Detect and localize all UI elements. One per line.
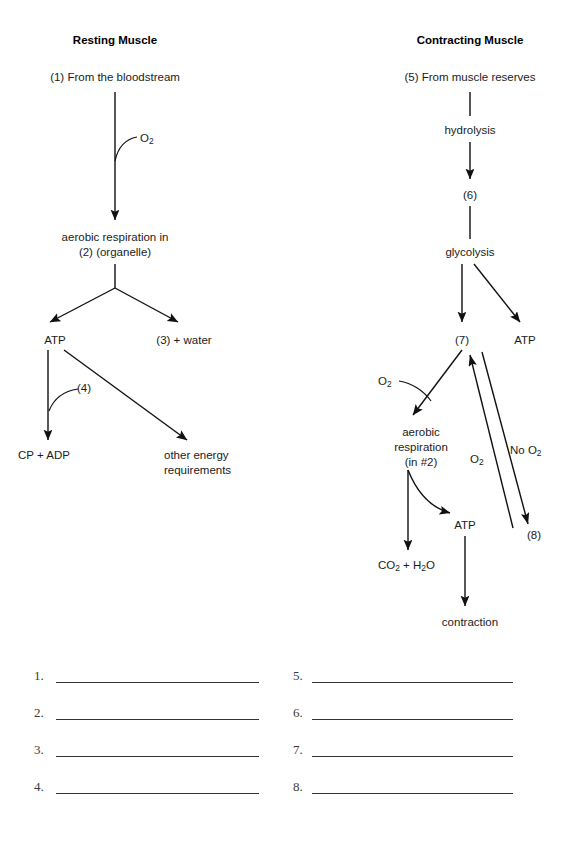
answer-blank-6[interactable] [312, 719, 513, 720]
answer-number-6: 6. [293, 705, 303, 721]
left-oxygen-input-label: O2 [140, 131, 154, 148]
left-output-other-line1: other energy [164, 448, 229, 462]
left-process-line2: (2) (organelle) [79, 245, 151, 259]
heading-contracting-muscle: Contracting Muscle [417, 34, 524, 46]
answer-row-8: 8. [293, 779, 521, 805]
left-process-line1: aerobic respiration in [62, 230, 169, 244]
answer-row-5: 5. [293, 668, 521, 694]
answer-number-8: 8. [293, 779, 303, 795]
left-output-other-line2: requirements [164, 463, 231, 477]
answer-number-4: 4. [34, 779, 44, 795]
right-no-oxygen-label: No O2 [510, 443, 542, 460]
right-product-7: (7) [455, 333, 469, 347]
right-final-contraction: contraction [442, 615, 498, 629]
right-product-8: (8) [527, 528, 541, 542]
left-source-label: (1) From the bloodstream [50, 70, 180, 84]
answer-row-1: 1. [34, 668, 262, 694]
answer-row-4: 4. [34, 779, 262, 805]
right-aerobic-line1: aerobic [402, 425, 440, 439]
answer-number-5: 5. [293, 668, 303, 684]
answer-blank-2[interactable] [56, 719, 259, 720]
right-aerobic-line3: (in #2) [405, 455, 438, 469]
left-product-blank-water: (3) + water [156, 333, 211, 347]
right-source-label: (5) From muscle reserves [405, 70, 536, 84]
answer-number-7: 7. [293, 742, 303, 758]
worksheet-page: Resting Muscle Contracting Muscle (1) Fr… [0, 0, 576, 842]
right-intermediate-6: (6) [463, 188, 477, 202]
left-product-atp: ATP [44, 333, 66, 347]
answer-number-1: 1. [34, 668, 44, 684]
right-aerobic-line2: respiration [394, 440, 448, 454]
right-product-atp: ATP [514, 333, 536, 347]
right-waste-label: CO2 + H2O [378, 558, 435, 575]
answer-blank-5[interactable] [312, 682, 513, 683]
answer-blank-7[interactable] [312, 756, 513, 757]
answer-blank-8[interactable] [312, 793, 513, 794]
answer-number-2: 2. [34, 705, 44, 721]
heading-resting-muscle: Resting Muscle [73, 34, 157, 46]
right-step-glycolysis: glycolysis [445, 245, 494, 259]
answer-blank-4[interactable] [56, 793, 259, 794]
right-step-hydrolysis: hydrolysis [444, 123, 495, 137]
answer-row-6: 6. [293, 705, 521, 731]
left-output-cp-adp: CP + ADP [18, 448, 70, 462]
answer-row-2: 2. [34, 705, 262, 731]
answer-blank-3[interactable] [56, 756, 259, 757]
answer-row-3: 3. [34, 742, 262, 768]
answer-number-3: 3. [34, 742, 44, 758]
left-branch-label-4: (4) [77, 381, 91, 395]
right-atp-out: ATP [454, 518, 476, 532]
right-oxygen-return-label: O2 [470, 452, 484, 469]
right-oxygen-input-label: O2 [378, 374, 392, 391]
answer-blank-1[interactable] [56, 682, 259, 683]
answer-row-7: 7. [293, 742, 521, 768]
